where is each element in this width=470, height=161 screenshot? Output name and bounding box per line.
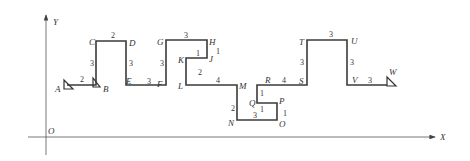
dim-lm: 4 (216, 76, 220, 85)
dimension-chain-diagram: Y X O A B C D E F G H J K L M N O P Q R … (0, 0, 470, 161)
point-label-a: A (54, 84, 61, 94)
point-label-b: B (103, 84, 109, 94)
dim-vw: 3 (368, 76, 372, 85)
point-label-e: E (125, 76, 132, 86)
dim-op: 1 (283, 109, 287, 118)
point-label-h: H (208, 37, 216, 47)
point-label-m: M (238, 81, 247, 91)
point-label-j: J (209, 54, 214, 64)
dim-hj: 1 (216, 47, 220, 56)
point-label-g: G (157, 37, 164, 47)
point-label-k: K (177, 55, 185, 65)
x-axis-label: X (439, 132, 446, 142)
dim-de: 3 (129, 59, 133, 68)
dim-ef: 3 (147, 77, 151, 86)
dim-qr: 1 (260, 89, 264, 98)
point-label-w: W (389, 67, 398, 77)
dim-rs: 4 (282, 76, 286, 85)
dim-gh: 3 (184, 31, 188, 40)
dim-bc: 3 (90, 59, 94, 68)
point-label-r: R (264, 75, 271, 85)
end-marker-triangle-icon (387, 77, 396, 86)
point-label-d: D (128, 38, 136, 48)
dim-kl: 2 (198, 68, 202, 77)
point-label-s: S (299, 76, 304, 86)
dim-uv: 3 (350, 58, 354, 67)
point-label-l: L (177, 81, 183, 91)
point-label-p: P (278, 96, 285, 106)
point-label-q: Q (249, 98, 256, 108)
point-label-o: O (279, 119, 286, 129)
dim-tu: 3 (329, 30, 333, 39)
dim-mn: 2 (231, 104, 235, 113)
dim-st: 3 (300, 58, 304, 67)
dim-jk: 1 (196, 49, 200, 58)
point-label-t: T (299, 37, 305, 47)
origin-label: O (48, 126, 55, 136)
point-label-v: V (352, 75, 359, 85)
dim-pq: 1 (260, 105, 264, 114)
point-label-n: N (227, 118, 235, 128)
point-label-f: F (156, 79, 163, 89)
dim-cd: 2 (111, 31, 115, 40)
point-label-u: U (351, 36, 358, 46)
point-label-c: C (89, 37, 96, 47)
y-axis-label: Y (53, 17, 59, 27)
dim-ab: 2 (80, 75, 84, 84)
dim-no: 3 (253, 111, 257, 120)
dimension-chain-path (67, 40, 387, 120)
dim-fg: 3 (160, 59, 164, 68)
